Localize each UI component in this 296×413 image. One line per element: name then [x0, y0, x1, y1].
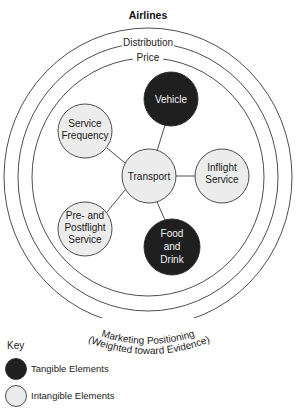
svg-text:Tangible Elements: Tangible Elements: [31, 363, 109, 374]
svg-text:Service: Service: [68, 234, 102, 245]
svg-text:Vehicle: Vehicle: [155, 94, 188, 105]
svg-text:Service: Service: [68, 118, 102, 129]
svg-text:Transport: Transport: [128, 171, 171, 182]
svg-text:Pre- and: Pre- and: [66, 210, 104, 221]
node-vehicle: Vehicle: [144, 72, 198, 126]
edge-transport-vehicle: [157, 125, 165, 151]
diagram-title: Airlines: [129, 9, 168, 21]
svg-text:Postflight: Postflight: [64, 222, 105, 233]
svg-text:Inflight: Inflight: [207, 162, 237, 173]
edge-transport-service-frequency: [107, 148, 125, 163]
edge-transport-pre-postflight: [107, 190, 125, 212]
legend-title: Key: [7, 340, 24, 351]
ring-label-distribution: Distribution: [123, 37, 173, 48]
svg-text:Drink: Drink: [160, 254, 184, 265]
node-transport: Transport: [122, 149, 176, 203]
legend: Key Tangible Elements Intangible Element…: [6, 340, 115, 407]
svg-text:and: and: [164, 241, 181, 252]
node-inflight-service: Inflight Service: [195, 149, 249, 203]
node-pre-postflight-service: Pre- and Postflight Service: [58, 202, 112, 256]
svg-text:Intangible Elements: Intangible Elements: [31, 390, 115, 401]
node-service-frequency: Service Frequency: [58, 104, 112, 158]
edge-transport-food-drink: [157, 202, 165, 220]
svg-text:Food: Food: [161, 228, 184, 239]
ring-label-price: Price: [137, 52, 160, 63]
tangible-swatch-icon: [6, 359, 27, 380]
node-food-and-drink: Food and Drink: [144, 219, 200, 275]
svg-text:Service: Service: [205, 174, 239, 185]
legend-item-tangible: Tangible Elements: [6, 359, 109, 380]
molecular-model-diagram: Airlines Distribution Price Marketing Po…: [0, 0, 296, 413]
svg-text:Frequency: Frequency: [61, 130, 108, 141]
legend-item-intangible: Intangible Elements: [6, 386, 115, 407]
intangible-swatch-icon: [6, 386, 27, 407]
